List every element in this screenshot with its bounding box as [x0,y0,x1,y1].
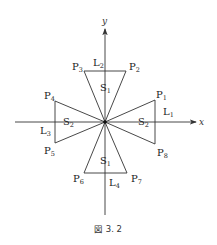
svg-text:S1: S1 [100,82,111,95]
point-label-p6: P6 [73,173,84,186]
region-label-left: S2 [63,116,74,129]
region-label-right: S2 [138,116,149,129]
y-axis-label: y [101,16,108,26]
svg-text:P5: P5 [44,145,55,158]
svg-text:P3: P3 [72,61,83,74]
figure-caption: 図 3. 2 [94,224,122,234]
line-label-l4: L4 [109,177,120,190]
point-label-p5: P5 [44,145,55,158]
svg-text:P8: P8 [157,147,168,160]
point-label-p7: P7 [131,173,142,186]
svg-text:L3: L3 [40,125,51,138]
svg-text:L1: L1 [163,106,174,119]
svg-text:L4: L4 [109,177,120,190]
region-label-bottom: S1 [100,155,111,168]
svg-text:P1: P1 [156,89,167,102]
line-label-l1: L1 [163,106,174,119]
line-label-l3: L3 [40,125,51,138]
svg-text:P2: P2 [129,61,140,74]
origin-point [103,120,107,124]
point-label-p1: P1 [156,89,167,102]
x-axis-label: x [199,117,204,127]
diagram: x y P1 P2 P3 P4 P5 P6 P7 P8 L1 L2 L3 L4 … [0,0,217,245]
svg-text:L2: L2 [93,57,104,70]
svg-text:P7: P7 [131,173,142,186]
point-label-p2: P2 [129,61,140,74]
point-label-p4: P4 [44,90,55,103]
svg-text:S2: S2 [138,116,149,129]
svg-text:P6: P6 [73,173,84,186]
svg-text:P4: P4 [44,90,55,103]
point-label-p8: P8 [157,147,168,160]
region-label-top: S1 [100,82,111,95]
svg-text:S1: S1 [100,155,111,168]
line-label-l2: L2 [93,57,104,70]
point-label-p3: P3 [72,61,83,74]
svg-text:S2: S2 [63,116,74,129]
